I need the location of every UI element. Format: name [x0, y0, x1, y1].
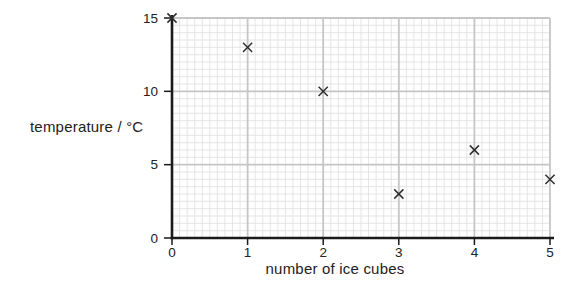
- y-axis-title: temperature / °C: [30, 118, 143, 135]
- grid-minor: [172, 18, 550, 238]
- scatter-chart: 051015012345: [0, 0, 578, 290]
- x-tick-label: 2: [319, 245, 327, 260]
- x-tick-label: 4: [471, 245, 479, 260]
- x-tick-label: 5: [546, 245, 554, 260]
- x-tick-label: 0: [168, 245, 176, 260]
- x-tick-label: 3: [395, 245, 403, 260]
- y-tick-label: 10: [143, 84, 158, 99]
- y-tick-label: 15: [143, 11, 158, 26]
- y-tick-label: 5: [150, 157, 158, 172]
- x-tick-label: 1: [244, 245, 252, 260]
- axes: [171, 15, 554, 239]
- x-axis-title: number of ice cubes: [235, 260, 435, 277]
- y-tick-label: 0: [150, 231, 158, 246]
- chart-page: 051015012345 temperature / °C number of …: [0, 0, 578, 290]
